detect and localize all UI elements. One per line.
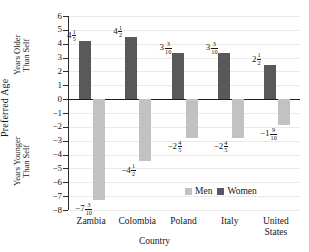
y-tick [63,113,68,114]
value-label-men: −412 [121,164,135,178]
value-label-men: −245 [168,140,182,154]
y-tick-label: −3 [42,136,62,145]
value-label-text: 3310 [160,41,172,55]
y-tick [63,44,68,45]
y-axis-upper-label: Years Older Than Self [13,16,37,94]
bar-women[interactable] [125,37,137,99]
x-axis-title: Country [0,236,309,246]
bar-men[interactable] [232,99,244,138]
y-tick-label: 2 [42,67,62,76]
value-label-women: 412 [113,25,122,39]
value-label-text: −1910 [260,127,277,141]
y-tick [63,16,68,17]
y-axis-lower-label: Years Younger Than Self [13,118,37,204]
x-axis-label: United States [247,216,305,237]
y-tick [63,71,68,72]
gridline [69,44,300,45]
y-tick [63,99,68,100]
legend-label-men: Men [195,186,212,196]
bar-women[interactable] [264,65,276,100]
y-tick [63,155,68,156]
value-label-women: 212 [252,53,261,67]
gridline [69,30,300,31]
value-label-text: −245 [214,140,228,154]
value-label-women: 3310 [160,41,172,55]
value-label-text: −245 [168,140,182,154]
gridline [69,58,300,59]
y-tick-label: 1 [42,81,62,90]
y-tick-label: −8 [42,206,62,215]
y-tick [63,85,68,86]
y-tick-label: −4 [42,150,62,159]
value-label-text: −412 [121,164,135,178]
chart-container: Preferred Age Years Older Than Self Year… [0,0,309,252]
y-tick [63,168,68,169]
y-tick [63,196,68,197]
legend-swatch-men-icon [185,188,192,195]
value-label-text: 412 [113,25,122,39]
legend-item-women[interactable]: Women [217,186,256,196]
legend-swatch-women-icon [217,188,224,195]
bar-women[interactable] [218,53,230,99]
y-tick [63,58,68,59]
bar-men[interactable] [93,99,105,200]
y-tick [63,182,68,183]
value-label-text: 3310 [206,41,218,55]
y-tick [63,210,68,211]
y-tick-label: −6 [42,178,62,187]
legend: Men Women [185,186,257,196]
plot-area: 415−7310412−4123310−2453310−245212−1910 [68,16,299,210]
y-tick [63,127,68,128]
y-tick-label: −5 [42,164,62,173]
value-label-men: −1910 [260,127,277,141]
value-label-women: 415 [67,29,76,43]
y-tick [63,30,68,31]
legend-item-men[interactable]: Men [185,186,212,196]
y-tick [63,141,68,142]
y-tick-label: −7 [42,192,62,201]
bar-men[interactable] [278,99,290,125]
gridline [69,16,300,17]
value-label-men: −7310 [75,202,92,216]
value-label-text: −7310 [75,202,92,216]
bar-men[interactable] [139,99,151,161]
y-tick-label: 0 [42,95,62,104]
y-tick-label: 5 [42,25,62,34]
value-label-text: 415 [67,29,76,43]
legend-label-women: Women [227,186,256,196]
y-tick-label: −2 [42,122,62,131]
y-tick-label: 3 [42,53,62,62]
y-tick-label: 4 [42,39,62,48]
value-label-women: 3310 [206,41,218,55]
value-label-text: 212 [252,53,261,67]
gridline [69,210,300,211]
bar-women[interactable] [79,41,91,99]
bar-women[interactable] [172,53,184,99]
bar-men[interactable] [186,99,198,138]
y-tick-label: −1 [42,109,62,118]
value-label-men: −245 [214,140,228,154]
y-tick-label: 6 [42,12,62,21]
